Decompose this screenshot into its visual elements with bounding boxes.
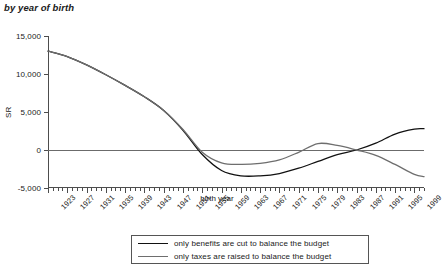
x-tick-minor xyxy=(115,188,116,191)
x-tick-minor xyxy=(135,188,136,191)
x-tick-minor xyxy=(226,188,227,191)
y-tick-label: 0 xyxy=(36,146,41,155)
x-tick-minor xyxy=(178,188,179,191)
x-tick-minor xyxy=(284,188,285,191)
x-tick-major xyxy=(87,188,88,193)
x-tick-major xyxy=(106,188,107,193)
x-tick-major xyxy=(183,188,184,193)
x-tick-major xyxy=(357,188,358,193)
x-tick-minor xyxy=(400,188,401,191)
x-tick-minor xyxy=(212,188,213,191)
x-tick-minor xyxy=(313,188,314,191)
x-tick-minor xyxy=(419,188,420,191)
legend-label-taxes: only taxes are raised to balance the bud… xyxy=(174,252,331,261)
x-tick-minor xyxy=(188,188,189,191)
x-tick-major xyxy=(376,188,377,193)
x-tick-minor xyxy=(371,188,372,191)
chart-title: by year of birth xyxy=(4,2,74,13)
x-tick-minor xyxy=(275,188,276,191)
x-tick-minor xyxy=(246,188,247,191)
x-tick-minor xyxy=(111,188,112,191)
series-line-taxes xyxy=(48,51,424,176)
x-tick-minor xyxy=(361,188,362,191)
x-tick-minor xyxy=(405,188,406,191)
x-tick-minor xyxy=(193,188,194,191)
x-tick-minor xyxy=(140,188,141,191)
x-tick-minor xyxy=(91,188,92,191)
x-tick-minor xyxy=(154,188,155,191)
x-tick-minor xyxy=(308,188,309,191)
x-tick-minor xyxy=(352,188,353,191)
x-tick-major xyxy=(279,188,280,193)
x-tick-minor xyxy=(130,188,131,191)
x-tick-major xyxy=(299,188,300,193)
x-tick-minor xyxy=(410,188,411,191)
x-tick-major xyxy=(318,188,319,193)
x-tick-minor xyxy=(332,188,333,191)
legend-item-benefits: only benefits are cut to balance the bud… xyxy=(138,238,368,249)
x-tick-minor xyxy=(390,188,391,191)
x-tick-minor xyxy=(120,188,121,191)
x-tick-minor xyxy=(231,188,232,191)
x-tick-minor xyxy=(169,188,170,191)
plot-area: 15,00010,0005,0000-5,000 192319271931193… xyxy=(48,36,424,188)
x-tick-minor xyxy=(381,188,382,191)
x-tick-minor xyxy=(323,188,324,191)
legend-label-benefits: only benefits are cut to balance the bud… xyxy=(174,239,329,248)
x-tick-minor xyxy=(77,188,78,191)
x-tick-minor xyxy=(207,188,208,191)
x-tick-major xyxy=(241,188,242,193)
x-tick-major xyxy=(67,188,68,193)
x-tick-minor xyxy=(149,188,150,191)
chart-legend: only benefits are cut to balance the bud… xyxy=(131,235,369,264)
x-tick-minor xyxy=(96,188,97,191)
y-tick-label: 5,000 xyxy=(20,108,41,117)
x-tick-minor xyxy=(342,188,343,191)
x-tick-major xyxy=(260,188,261,193)
x-tick-major xyxy=(48,188,49,193)
x-tick-minor xyxy=(328,188,329,191)
y-tick-label: -5,000 xyxy=(18,184,41,193)
x-tick-minor xyxy=(366,188,367,191)
x-tick-minor xyxy=(82,188,83,191)
x-tick-minor xyxy=(197,188,198,191)
x-tick-major xyxy=(144,188,145,193)
x-tick-minor xyxy=(424,188,425,191)
legend-item-taxes: only taxes are raised to balance the bud… xyxy=(138,251,368,262)
x-tick-minor xyxy=(58,188,59,191)
x-tick-minor xyxy=(289,188,290,191)
x-tick-minor xyxy=(53,188,54,191)
x-tick-minor xyxy=(270,188,271,191)
x-tick-minor xyxy=(159,188,160,191)
x-tick-minor xyxy=(236,188,237,191)
x-tick-minor xyxy=(101,188,102,191)
series-lines xyxy=(48,36,424,188)
x-tick-major xyxy=(395,188,396,193)
x-tick-minor xyxy=(250,188,251,191)
x-tick-minor xyxy=(347,188,348,191)
y-axis-title: SR xyxy=(4,106,13,118)
x-tick-minor xyxy=(265,188,266,191)
x-tick-major xyxy=(202,188,203,193)
y-tick-label: 10,000 xyxy=(16,70,41,79)
x-tick-minor xyxy=(62,188,63,191)
x-tick-minor xyxy=(294,188,295,191)
legend-line-icon-benefits xyxy=(138,243,168,244)
x-tick-minor xyxy=(217,188,218,191)
x-tick-major xyxy=(222,188,223,193)
x-tick-minor xyxy=(173,188,174,191)
legend-line-icon-taxes xyxy=(138,256,168,257)
y-tick-label: 15,000 xyxy=(16,32,41,41)
x-tick-major xyxy=(164,188,165,193)
x-tick-major xyxy=(414,188,415,193)
series-line-benefits xyxy=(48,51,424,176)
x-tick-minor xyxy=(72,188,73,191)
x-tick-minor xyxy=(303,188,304,191)
x-axis-title: birth year xyxy=(0,194,434,203)
x-tick-major xyxy=(125,188,126,193)
x-tick-major xyxy=(337,188,338,193)
x-tick-minor xyxy=(255,188,256,191)
x-tick-minor xyxy=(385,188,386,191)
